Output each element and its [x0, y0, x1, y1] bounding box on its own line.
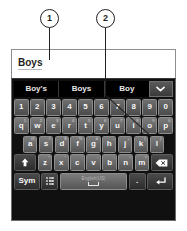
key-v-label: v: [91, 159, 95, 167]
key-d-alt: $: [64, 137, 66, 141]
space-key[interactable]: English(US): [60, 173, 128, 190]
device-screen: Boys Boy's Boys Boy 1 2 3 4 5 6 7 8 9 0: [11, 49, 176, 221]
key-y-alt: 6: [104, 119, 106, 123]
key-z-alt: *: [48, 156, 50, 160]
symbols-key[interactable]: Sym: [14, 173, 40, 190]
key-r-label: r: [68, 122, 71, 130]
key-z[interactable]: *z: [38, 154, 53, 171]
keyboard-row-bottom: Sym English(US) .: [14, 173, 173, 190]
key-p-label: p: [163, 122, 168, 130]
key-c-alt: ': [81, 156, 82, 160]
space-key-label: English(US): [81, 177, 105, 182]
key-m[interactable]: ?m: [135, 154, 150, 171]
key-d-label: d: [59, 140, 64, 148]
suggestion-item-3[interactable]: Boy: [105, 81, 149, 97]
key-r[interactable]: 4r: [62, 117, 77, 134]
callout-marker-1: 1: [40, 9, 59, 28]
key-g[interactable]: &g: [86, 136, 100, 153]
key-4[interactable]: 4: [62, 99, 77, 116]
key-x[interactable]: "x: [54, 154, 69, 171]
suggestion-bar: Boy's Boys Boy: [14, 81, 173, 97]
key-t[interactable]: 5t: [78, 117, 93, 134]
key-o[interactable]: 9o: [142, 117, 157, 134]
key-c[interactable]: 'c: [70, 154, 85, 171]
key-0[interactable]: 0: [158, 99, 173, 116]
key-y[interactable]: 6y: [94, 117, 109, 134]
key-k-label: k: [139, 140, 143, 148]
key-y-label: y: [99, 122, 103, 130]
key-k[interactable]: (k: [134, 136, 148, 153]
key-b-label: b: [107, 159, 112, 167]
key-n-alt: !: [129, 156, 130, 160]
key-q[interactable]: 1q: [14, 117, 29, 134]
key-a[interactable]: @a: [23, 136, 37, 153]
key-t-label: t: [84, 122, 87, 130]
key-s-alt: #: [48, 137, 50, 141]
key-x-alt: ": [65, 156, 66, 160]
key-t-alt: 5: [88, 119, 90, 123]
enter-arrow-icon[interactable]: [147, 173, 173, 190]
key-r-alt: 4: [72, 119, 74, 123]
key-f[interactable]: %f: [70, 136, 84, 153]
key-b[interactable]: ;b: [102, 154, 117, 171]
key-n[interactable]: !n: [118, 154, 133, 171]
key-8[interactable]: 8: [126, 99, 141, 116]
key-5[interactable]: 5: [78, 99, 93, 116]
key-e-label: e: [51, 122, 55, 130]
key-m-label: m: [138, 159, 145, 167]
key-q-label: q: [19, 122, 24, 130]
suggestion-item-1[interactable]: Boy's: [14, 81, 59, 97]
key-l-alt: ): [160, 137, 161, 141]
keyboard-row-numbers: 1 2 3 4 5 6 7 8 9 0: [14, 99, 173, 116]
key-v[interactable]: :v: [86, 154, 101, 171]
key-9[interactable]: 9: [142, 99, 157, 116]
keyboard-row-zxcv: *z "x 'c :v ;b !n ?m: [14, 154, 173, 171]
key-m-alt: ?: [144, 156, 146, 160]
key-h-label: h: [107, 140, 112, 148]
key-e-alt: 3: [56, 119, 58, 123]
key-s[interactable]: #s: [39, 136, 53, 153]
key-z-label: z: [43, 159, 47, 167]
key-h[interactable]: -h: [102, 136, 116, 153]
key-1[interactable]: 1: [14, 99, 29, 116]
key-q-alt: 1: [24, 119, 26, 123]
key-i[interactable]: 8i: [126, 117, 141, 134]
shift-arrow-icon[interactable]: [14, 154, 36, 171]
key-p[interactable]: 0p: [158, 117, 173, 134]
period-key[interactable]: .: [129, 173, 146, 190]
key-g-label: g: [91, 140, 96, 148]
key-o-label: o: [147, 122, 152, 130]
key-j-label: j: [124, 140, 126, 148]
key-i-alt: 8: [136, 119, 138, 123]
key-w-alt: 2: [40, 119, 42, 123]
key-w[interactable]: 2w: [30, 117, 45, 134]
key-l[interactable]: )l: [150, 136, 164, 153]
key-g-alt: &: [95, 137, 98, 141]
keyboard-row-asdf: @a #s $d %f &g -h +j (k )l: [14, 136, 173, 153]
key-h-alt: -: [113, 137, 114, 141]
key-f-label: f: [76, 140, 79, 148]
key-o-alt: 9: [152, 119, 154, 123]
key-f-alt: %: [79, 137, 83, 141]
key-u[interactable]: 7u: [110, 117, 125, 134]
key-s-label: s: [44, 140, 48, 148]
key-j[interactable]: +j: [118, 136, 132, 153]
key-x-label: x: [59, 159, 63, 167]
key-3[interactable]: 3: [46, 99, 61, 116]
key-l-label: l: [156, 140, 158, 148]
key-2[interactable]: 2: [30, 99, 45, 116]
key-d[interactable]: $d: [55, 136, 69, 153]
key-p-alt: 0: [168, 119, 170, 123]
key-7[interactable]: 7: [110, 99, 125, 116]
key-a-alt: @: [31, 137, 35, 141]
key-i-label: i: [132, 122, 134, 130]
keyboard-settings-icon[interactable]: [41, 173, 58, 190]
key-a-label: a: [28, 140, 32, 148]
suggestion-item-2[interactable]: Boys: [59, 81, 104, 97]
text-input-field[interactable]: Boys: [11, 49, 176, 78]
chevron-down-icon[interactable]: [149, 81, 173, 97]
key-u-alt: 7: [120, 119, 122, 123]
key-e[interactable]: 3e: [46, 117, 61, 134]
key-6[interactable]: 6: [94, 99, 109, 116]
backspace-icon[interactable]: [151, 154, 173, 171]
